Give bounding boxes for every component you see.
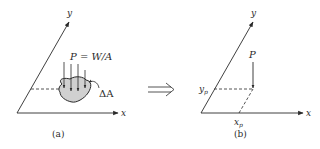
panel-a: x y P = W/A ΔA (a) [17, 8, 126, 139]
panel-b: x y P yp xp (b) [198, 8, 311, 139]
x-axis-label-a: x [121, 108, 126, 118]
equivalence-diagram: x y P = W/A ΔA (a) x y P yp xp (b) [0, 0, 320, 149]
y-axis-label-a: y [66, 8, 73, 18]
y-axis-b [201, 22, 253, 113]
caption-a: (a) [52, 129, 64, 139]
yp-label: yp [198, 84, 208, 96]
xp-label: xp [234, 117, 243, 129]
dashed-slanted-b [239, 89, 253, 113]
y-axis-a [17, 22, 69, 113]
area-label: ΔA [99, 88, 114, 99]
load-label: P = W/A [69, 51, 112, 62]
y-axis-label-b: y [250, 8, 257, 18]
caption-b: (b) [234, 129, 247, 139]
equivalence-arrow-icon [148, 83, 174, 96]
force-label: P [248, 49, 256, 60]
x-axis-label-b: x [306, 108, 311, 118]
